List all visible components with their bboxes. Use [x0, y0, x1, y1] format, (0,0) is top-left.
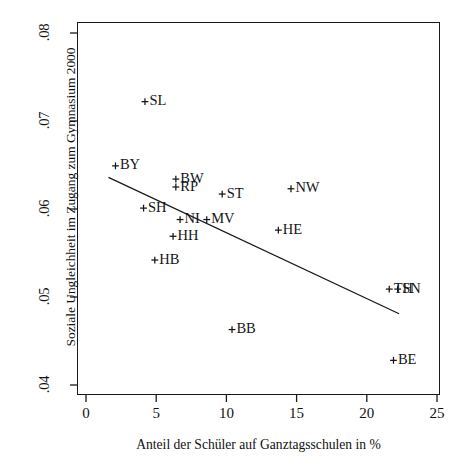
- y-tick-label-.07: .07: [36, 101, 53, 141]
- point-label-BB: BB: [237, 320, 256, 337]
- x-tick-label-0: 0: [66, 405, 106, 422]
- x-tick-label-5: 5: [136, 405, 176, 422]
- x-tick-label-25: 25: [417, 405, 457, 422]
- point-label-BY: BY: [120, 156, 140, 173]
- point-label-SH: SH: [148, 199, 166, 216]
- x-tick-label-10: 10: [206, 405, 246, 422]
- scatter-plot-figure: .04.05.06.07.08 0510152025 SLBYBWRPSTNWS…: [0, 0, 463, 469]
- y-tick-label-.06: .06: [36, 189, 53, 229]
- x-axis-ticks: [86, 395, 437, 402]
- plot-area-frame: [77, 22, 440, 395]
- point-label-NI: NI: [185, 210, 200, 227]
- y-tick-label-.08: .08: [36, 13, 53, 53]
- x-tick-label-15: 15: [277, 405, 317, 422]
- y-tick-label-.04: .04: [36, 365, 53, 405]
- point-label-HB: HB: [159, 251, 179, 268]
- point-label-HH: HH: [178, 227, 199, 244]
- point-label-BE: BE: [398, 351, 416, 368]
- point-label-MV: MV: [211, 210, 234, 227]
- y-tick-label-.05: .05: [36, 277, 53, 317]
- point-label-HE: HE: [283, 221, 302, 238]
- point-label-SL: SL: [149, 92, 166, 109]
- point-label-NW: NW: [295, 179, 319, 196]
- x-tick-label-20: 20: [347, 405, 387, 422]
- point-label-SN: SN: [402, 280, 420, 297]
- point-label-RP: RP: [180, 178, 198, 195]
- y-axis-title: Soziale Ungleichheit im Zugang zum Gymna…: [63, 42, 79, 352]
- x-axis-title: Anteil der Schüler auf Ganztagsschulen i…: [77, 437, 440, 453]
- point-label-ST: ST: [227, 185, 244, 202]
